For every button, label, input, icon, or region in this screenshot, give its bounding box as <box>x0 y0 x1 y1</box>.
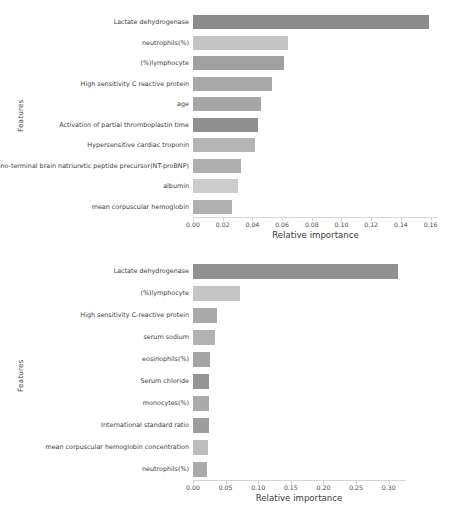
plot-area-bottom: Lactate dehydrogenase(%)lymphocyteHigh s… <box>193 260 405 480</box>
bar-category-label: Serum chloride <box>140 378 193 384</box>
bar-category-label: age <box>177 101 193 107</box>
bar-row: eosinophils(%) <box>193 352 405 367</box>
bar-row: International standard ratio <box>193 418 405 433</box>
bar-category-label: Activation of partial thromboplastin tim… <box>59 122 193 128</box>
bar-category-label: Hypersensitive cardiac troponin <box>87 142 193 148</box>
bar-row: mean corpuscular hemoglobin concentratio… <box>193 440 405 455</box>
bar-category-label: mean corpuscular hemoglobin <box>92 204 193 210</box>
bar-category-label: High sensitivity C reactive protein <box>81 81 193 87</box>
x-axis-tick-label: 0.00 <box>186 221 200 228</box>
bar-category-label: Amino-terminal brain natriuretic peptide… <box>0 163 193 169</box>
x-axis-tick-label: 0.04 <box>246 221 260 228</box>
bar-row: monocytes(%) <box>193 396 405 411</box>
bar <box>193 97 261 111</box>
bar-category-label: eosinophils(%) <box>142 356 193 362</box>
x-axis-tick-label: 0.14 <box>394 221 408 228</box>
bar <box>193 330 215 345</box>
x-axis-tick-label: 0.00 <box>186 484 200 491</box>
bar <box>193 286 240 301</box>
x-axis-tick-label: 0.02 <box>216 221 230 228</box>
bar <box>193 440 208 455</box>
x-axis-tick-label: 0.10 <box>335 221 349 228</box>
bar <box>193 56 284 70</box>
bar-row: neutrophils(%) <box>193 462 405 477</box>
bar-category-label: neutrophils(%) <box>142 40 193 46</box>
bar <box>193 77 272 91</box>
bar-category-label: (%)lymphocyte <box>140 60 193 66</box>
bar <box>193 118 258 132</box>
bar-row: age <box>193 97 438 111</box>
bar <box>193 418 209 433</box>
bar-category-label: Lactate dehydrogenase <box>114 19 193 25</box>
bar-row: High sensitivity C-reactive protein <box>193 308 405 323</box>
bar-row: neutrophils(%) <box>193 36 438 50</box>
x-axis-tick-label: 0.15 <box>284 484 298 491</box>
bar-row: Hypersensitive cardiac troponin <box>193 138 438 152</box>
bar-category-label: (%)lymphocyte <box>140 290 193 296</box>
bar-category-label: Lactate dehydrogenase <box>114 268 193 274</box>
bar-category-label: monocytes(%) <box>143 400 193 406</box>
bar <box>193 200 232 214</box>
bar <box>193 264 398 279</box>
bar-row: Lactate dehydrogenase <box>193 264 405 279</box>
bar <box>193 179 238 193</box>
y-axis-label-bottom: Features <box>16 359 25 392</box>
bar <box>193 36 288 50</box>
x-axis-tick-label: 0.08 <box>305 221 319 228</box>
x-axis-label: Relative importance <box>272 230 359 240</box>
bar-category-label: albumin <box>163 183 193 189</box>
x-axis-tick-label: 0.16 <box>424 221 438 228</box>
feature-importance-chart-bottom: Features Lactate dehydrogenase(%)lymphoc… <box>0 252 459 521</box>
bar <box>193 159 241 173</box>
bar-row: albumin <box>193 179 438 193</box>
bar <box>193 462 207 477</box>
bar <box>193 138 255 152</box>
bar-category-label: serum sodium <box>143 334 193 340</box>
bar-row: Serum chloride <box>193 374 405 389</box>
feature-importance-chart-top: Features Lactate dehydrogenaseneutrophil… <box>0 0 459 252</box>
x-axis-tick-label: 0.10 <box>251 484 265 491</box>
x-axis-tick-label: 0.05 <box>219 484 233 491</box>
bar <box>193 15 429 29</box>
bar <box>193 308 217 323</box>
bar-row: Activation of partial thromboplastin tim… <box>193 118 438 132</box>
bar-row: (%)lymphocyte <box>193 286 405 301</box>
bar-category-label: High sensitivity C-reactive protein <box>80 312 193 318</box>
bar <box>193 374 209 389</box>
bar-row: (%)lymphocyte <box>193 56 438 70</box>
bar-category-label: neutrophils(%) <box>142 466 193 472</box>
bar <box>193 396 209 411</box>
bar-category-label: International standard ratio <box>101 422 193 428</box>
bar-row: serum sodium <box>193 330 405 345</box>
x-axis-tick-label: 0.25 <box>349 484 363 491</box>
bar <box>193 352 210 367</box>
bar-row: Lactate dehydrogenase <box>193 15 438 29</box>
x-axis-label: Relative importance <box>256 493 343 503</box>
y-axis-label-top: Features <box>16 99 25 132</box>
plot-area-top: Lactate dehydrogenaseneutrophils(%)(%)ly… <box>193 12 438 217</box>
x-axis-tick-label: 0.12 <box>364 221 378 228</box>
bar-row: High sensitivity C reactive protein <box>193 77 438 91</box>
bar-category-label: mean corpuscular hemoglobin concentratio… <box>45 444 193 450</box>
bar-row: mean corpuscular hemoglobin <box>193 200 438 214</box>
bar-row: Amino-terminal brain natriuretic peptide… <box>193 159 438 173</box>
x-axis-tick-label: 0.06 <box>275 221 289 228</box>
x-axis-tick-label: 0.20 <box>317 484 331 491</box>
x-axis-tick-label: 0.30 <box>382 484 396 491</box>
